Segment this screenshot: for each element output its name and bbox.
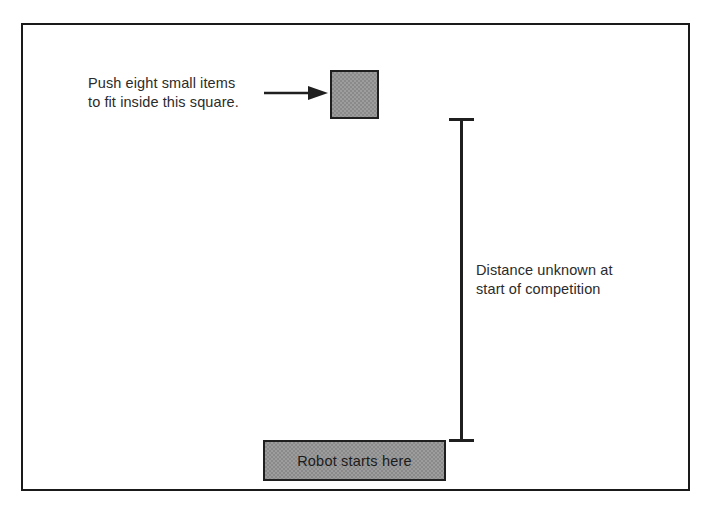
dimension-stem	[460, 120, 463, 442]
dimension-cap-bottom	[449, 439, 474, 442]
push-items-annotation: Push eight small items to fit inside thi…	[88, 74, 288, 112]
arrow-right-icon	[264, 84, 330, 102]
robot-start-label: Robot starts here	[297, 453, 412, 469]
target-square	[330, 70, 379, 119]
diagram-canvas: Push eight small items to fit inside thi…	[0, 0, 713, 508]
dimension-line-icon	[449, 118, 475, 444]
robot-start-zone: Robot starts here	[263, 440, 446, 481]
arrow-right-glyph	[264, 84, 330, 102]
distance-annotation: Distance unknown at start of competition	[476, 261, 656, 299]
